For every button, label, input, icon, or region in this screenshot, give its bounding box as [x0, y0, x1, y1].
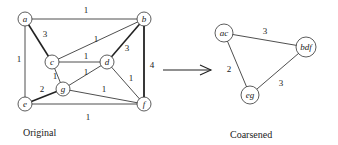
coarsened-edge-weight-label: 2 [227, 64, 232, 74]
coarsened-node-label: ac [220, 28, 229, 38]
original-edge-weight-label: 1 [84, 51, 89, 61]
original-node-label: c [50, 57, 54, 67]
original-graph-nodes: abcdgef [18, 12, 151, 111]
original-node-label: a [23, 14, 28, 24]
original-edge-weight-label: 1 [84, 67, 89, 77]
original-edge-weight-label: 1 [94, 34, 99, 44]
coarsened-node-label: bdf [300, 42, 313, 52]
original-graph-edges: 1311341111121 [17, 5, 155, 122]
original-node-label: b [142, 14, 147, 24]
coarsening-arrow-icon [163, 65, 211, 75]
coarsened-graph-edges: 323 [224, 26, 306, 95]
original-edge-weight-label: 1 [53, 71, 58, 81]
original-edge-a-c [25, 19, 52, 62]
original-edge-weight-label: 1 [102, 84, 107, 94]
original-edge-b-d [107, 19, 144, 62]
coarsened-caption: Coarsened [230, 129, 272, 140]
original-edge-weight-label: 1 [129, 73, 134, 83]
original-edge-weight-label: 3 [43, 29, 48, 39]
original-caption: Original [23, 127, 56, 138]
original-edge-weight-label: 1 [84, 5, 89, 15]
original-node-label: d [105, 57, 110, 67]
original-node-label: g [61, 84, 66, 94]
original-edge-weight-label: 1 [17, 54, 22, 64]
original-edge-weight-label: 1 [86, 112, 91, 122]
coarsened-node-label: eg [246, 90, 255, 100]
original-node-label: e [23, 99, 27, 109]
original-edge-weight-label: 4 [150, 60, 155, 70]
graph-coarsening-diagram: 1311341111121 abcdgef 323 acbdfeg [0, 0, 338, 145]
original-edge-weight-label: 2 [40, 84, 45, 94]
coarsened-edge-weight-label: 3 [279, 78, 284, 88]
original-edge-weight-label: 3 [125, 43, 130, 53]
original-edge-d-f [107, 62, 144, 104]
coarsened-edge-weight-label: 3 [263, 26, 268, 36]
